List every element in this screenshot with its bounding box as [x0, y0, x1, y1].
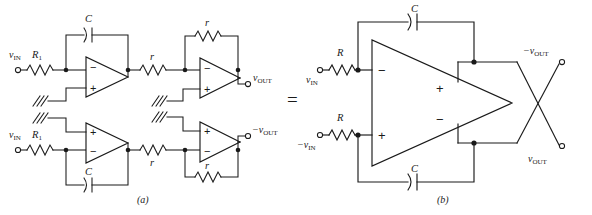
- diff-amp-body: [372, 40, 512, 166]
- figure-root: vIN R1 C r r vOUT vIN R1 C r r −vOUT −: [0, 0, 592, 215]
- wire-opamp4-plus-to-ground: [167, 117, 200, 131]
- caption-panel-b: (b): [437, 194, 449, 206]
- opamp1-plus-sign: +: [90, 82, 96, 94]
- label-capacitor-bottom-b: C: [411, 163, 419, 174]
- diff-amp-in-minus-sign: −: [378, 63, 386, 78]
- input-terminal-top-a[interactable]: [15, 67, 20, 72]
- label-output-top-a: vOUT: [253, 72, 273, 85]
- resistor-r-feedback-bottom-symbol: [195, 172, 221, 182]
- label-r-series-top: r: [150, 51, 155, 62]
- resistor-r1-top-symbol: [27, 65, 53, 75]
- opamp2-plus-sign: +: [204, 83, 210, 95]
- output-terminal-top-b[interactable]: [559, 59, 564, 64]
- wire-fb-top-left-stage2: [185, 36, 195, 70]
- wire-opamp3-plus-to-ground: [48, 118, 86, 132]
- opamp4-plus-sign: +: [204, 125, 210, 137]
- resistor-r-series-bottom-symbol: [140, 145, 166, 155]
- opamp1-minus-sign: −: [90, 61, 96, 73]
- label-input-top-b: vIN: [306, 74, 318, 87]
- label-resistor-r-bottom-b: R: [336, 112, 344, 123]
- input-terminal-top-b[interactable]: [317, 67, 322, 72]
- wire-cap-bottom-left-a: [66, 150, 84, 185]
- output-terminal-top-a[interactable]: [245, 81, 250, 86]
- opamp2-minus-sign: −: [204, 62, 210, 74]
- output-terminal-bottom-b[interactable]: [559, 143, 564, 148]
- label-r-feedback-bottom: r: [205, 160, 210, 171]
- label-resistor-r-top-b: R: [336, 47, 344, 58]
- node-amp-out-top-b: [471, 59, 476, 64]
- node-amp-out-bottom-b: [471, 140, 476, 145]
- label-output-top-b: −vOUT: [523, 45, 549, 58]
- caption-panel-a: (a): [137, 194, 149, 206]
- ground-symbol-3: [33, 113, 48, 123]
- wire-opamp2-plus-to-ground: [167, 89, 200, 101]
- panel-a-group: vIN R1 C r r vOUT vIN R1 C r r −vOUT −: [9, 13, 278, 206]
- equals-sign: =: [287, 89, 298, 110]
- opamp3-minus-sign: −: [90, 145, 96, 157]
- ground-symbol-2: [152, 96, 167, 106]
- wire-cap-top-b-right: [417, 22, 474, 62]
- output-terminal-bottom-a[interactable]: [245, 133, 250, 138]
- resistor-r-top-b-symbol: [329, 65, 355, 75]
- panel-b-group: R vIN R −vIN C C − + + − −vOUT vOUT (b): [297, 3, 565, 206]
- label-resistor-r1-top: R1: [31, 49, 42, 62]
- label-output-bottom-b: vOUT: [528, 153, 548, 166]
- wire-cap-bottom-b-right: [417, 143, 474, 182]
- input-terminal-bottom-b[interactable]: [317, 132, 322, 137]
- resistor-r-bottom-b-symbol: [329, 130, 355, 140]
- label-capacitor-top-b: C: [411, 3, 419, 14]
- resistor-r-feedback-top-symbol: [195, 31, 221, 41]
- circuit-diagram-svg: vIN R1 C r r vOUT vIN R1 C r r −vOUT −: [0, 0, 592, 215]
- wire-fb-bottom-right-stage2: [221, 150, 238, 177]
- resistor-r-series-top-symbol: [140, 65, 166, 75]
- label-input-bottom-b: −vIN: [297, 139, 316, 152]
- input-terminal-bottom-a[interactable]: [15, 147, 20, 152]
- diff-amp-out-plus-sign: +: [436, 81, 444, 96]
- opamp3-plus-sign: +: [90, 126, 96, 138]
- label-resistor-r1-bottom: R1: [31, 129, 42, 142]
- wire-fb-top-right-stage2: [221, 36, 238, 70]
- wire-fb-bottom-left-stage2: [185, 150, 195, 177]
- label-capacitor-top-a: C: [85, 13, 93, 24]
- opamp4-minus-sign: −: [204, 145, 210, 157]
- ground-symbol-1: [33, 96, 48, 106]
- label-input-top-a: vIN: [9, 49, 21, 62]
- ground-symbol-4: [152, 112, 167, 122]
- wire-opamp1-plus-to-ground: [48, 88, 86, 101]
- diff-amp-out-minus-sign: −: [436, 112, 444, 127]
- diff-amp-in-plus-sign: +: [378, 128, 386, 143]
- label-r-series-bottom: r: [150, 157, 155, 168]
- wire-cross-bottom-to-top-b: [517, 64, 559, 143]
- label-output-bottom-a: −vOUT: [252, 124, 278, 137]
- label-input-bottom-a: vIN: [9, 129, 21, 142]
- label-capacitor-bottom-a: C: [85, 166, 93, 177]
- resistor-r1-bottom-symbol: [27, 145, 53, 155]
- label-r-feedback-top: r: [205, 17, 210, 28]
- wire-cap-top-left-a: [66, 35, 84, 70]
